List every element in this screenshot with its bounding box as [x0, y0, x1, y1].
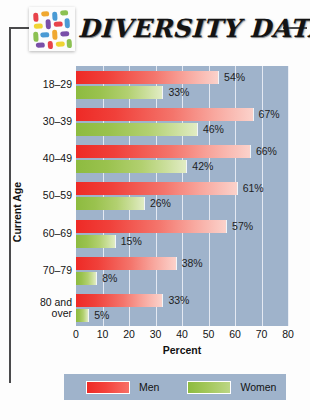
y-tick-label: 30–39 — [20, 116, 72, 128]
confetti-tile-icon — [29, 7, 75, 51]
bar-value-label: 42% — [192, 160, 213, 173]
bar-value-label: 8% — [102, 272, 117, 285]
x-tick-label: 30 — [141, 328, 171, 340]
bar-value-label: 38% — [182, 257, 203, 270]
x-tick-label: 0 — [61, 328, 91, 340]
bar-value-label: 15% — [121, 235, 142, 248]
bar-group: 57%15% — [76, 220, 288, 252]
bar-men — [76, 294, 163, 307]
bar-women — [76, 272, 97, 285]
y-tick-label: 40–49 — [20, 153, 72, 165]
bar-value-label: 46% — [203, 123, 224, 136]
bar-men — [76, 145, 251, 158]
legend-label-women: Women — [240, 381, 276, 393]
bar-men — [76, 257, 177, 270]
x-tick-label: 50 — [194, 328, 224, 340]
bar-group: 67%46% — [76, 108, 288, 140]
bar-group: 54%33% — [76, 71, 288, 103]
x-tick-label: 40 — [167, 328, 197, 340]
gridline — [288, 66, 289, 326]
legend-swatch-women — [187, 381, 231, 394]
bar-women — [76, 197, 145, 210]
y-axis-tick-labels: 18–2930–3940–4950–5960–6970–7980 andover — [20, 66, 72, 326]
x-axis-tick-labels: 01020304050607080 — [76, 328, 288, 344]
bar-value-label: 33% — [168, 86, 189, 99]
x-tick-label: 70 — [247, 328, 277, 340]
chart-header: DIVERSITY DATA — [0, 0, 310, 56]
bar-women — [76, 309, 89, 322]
x-tick-label: 20 — [114, 328, 144, 340]
y-tick-label: 60–69 — [20, 228, 72, 240]
page-title: DIVERSITY DATA — [79, 9, 282, 51]
bar-value-label: 57% — [232, 220, 253, 233]
bar-men — [76, 71, 219, 84]
bar-women — [76, 160, 187, 173]
plot-area: 54%33%67%46%66%42%61%26%57%15%38%8%33%5% — [76, 66, 288, 326]
bar-women — [76, 235, 116, 248]
bar-value-label: 26% — [150, 197, 171, 210]
x-tick-label: 60 — [220, 328, 250, 340]
y-tick-label: 50–59 — [20, 190, 72, 202]
legend-item-men: Men — [86, 381, 159, 394]
bar-men — [76, 108, 254, 121]
bar-group: 38%8% — [76, 257, 288, 289]
bar-value-label: 66% — [256, 145, 277, 158]
bar-value-label: 33% — [168, 294, 189, 307]
bar-value-label: 54% — [224, 71, 245, 84]
bar-value-label: 61% — [243, 182, 264, 195]
y-tick-label: 18–29 — [20, 79, 72, 91]
chart-legend: Men Women — [64, 374, 286, 400]
legend-swatch-men — [86, 381, 130, 394]
y-tick-label: 80 andover — [20, 297, 72, 320]
x-tick-label: 80 — [273, 328, 303, 340]
bar-group: 66%42% — [76, 145, 288, 177]
bar-women — [76, 86, 163, 99]
bar-women — [76, 123, 198, 136]
x-tick-label: 10 — [88, 328, 118, 340]
legend-item-women: Women — [187, 381, 276, 394]
bar-men — [76, 182, 238, 195]
bar-men — [76, 220, 227, 233]
bar-value-label: 5% — [94, 309, 109, 322]
legend-label-men: Men — [139, 381, 159, 393]
bar-group: 33%5% — [76, 294, 288, 326]
diversity-bar-chart: Current Age 18–2930–3940–4950–5960–6970–… — [0, 56, 310, 356]
bar-group: 61%26% — [76, 182, 288, 214]
bar-value-label: 67% — [259, 108, 280, 121]
x-axis-label: Percent — [76, 344, 288, 356]
y-tick-label: 70–79 — [20, 265, 72, 277]
